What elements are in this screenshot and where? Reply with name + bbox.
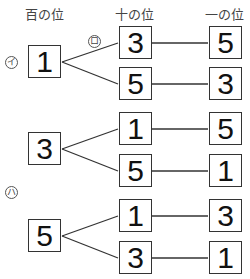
ones-box: 3: [209, 67, 242, 100]
tens-box: 1: [119, 199, 152, 232]
ones-box: 1: [209, 154, 242, 187]
header-tens: 十の位: [115, 4, 154, 23]
hundreds-box: 1: [28, 45, 61, 78]
tens-box: 5: [119, 67, 152, 100]
tree-diagram: 百の位 十の位 一の位 イ ロ ハ 1 3 5 5 3 3 1 5 5 1 5 …: [0, 0, 250, 279]
label-i-marker: イ: [5, 56, 18, 69]
ones-box: 5: [209, 26, 242, 59]
tens-box: 5: [119, 154, 152, 187]
tens-box: 3: [119, 241, 152, 274]
tens-box: 3: [119, 26, 152, 59]
hundreds-box: 3: [28, 132, 61, 165]
hundreds-box: 5: [28, 219, 61, 252]
header-hundreds: 百の位: [25, 4, 64, 23]
ones-box: 3: [209, 199, 242, 232]
label-ro-marker: ロ: [88, 35, 101, 48]
ones-box: 5: [209, 112, 242, 145]
ones-box: 1: [209, 241, 242, 274]
header-ones: 一の位: [205, 4, 244, 23]
tens-box: 1: [119, 112, 152, 145]
label-ha-marker: ハ: [5, 186, 18, 199]
